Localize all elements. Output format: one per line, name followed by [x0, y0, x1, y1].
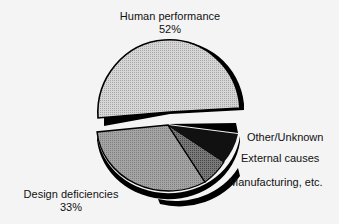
slice-human-performance [98, 40, 244, 126]
label-design-text: Design deficiencies [16, 188, 126, 201]
label-design-deficiencies: Design deficiencies 33% [16, 188, 126, 214]
label-human-text: Human performance [100, 10, 240, 23]
label-external-causes: External causes [241, 152, 319, 165]
label-design-pct: 33% [16, 201, 126, 214]
label-manufacturing: Manufacturing, etc. [229, 176, 323, 189]
label-human-performance: Human performance 52% [100, 10, 240, 36]
label-human-pct: 52% [100, 23, 240, 36]
label-other-unknown: Other/Unknown [247, 131, 323, 144]
